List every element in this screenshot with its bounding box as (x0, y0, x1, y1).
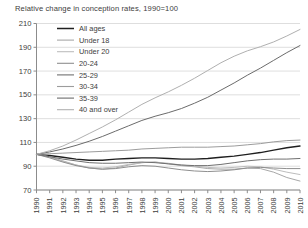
x-tick-label: 2001 (177, 198, 186, 214)
chart-legend: All agesUnder 18Under 2020-2425-2930-343… (57, 24, 119, 114)
legend-label: Under 20 (79, 47, 109, 56)
x-tick-label: 2007 (256, 198, 265, 214)
x-tick-label: 2006 (243, 198, 252, 214)
y-axis-labels: 2101901701501301109070 (19, 19, 32, 195)
x-tick-label: 2005 (230, 198, 239, 214)
y-tick-label: 210 (19, 19, 32, 28)
x-tick-label: 2010 (296, 198, 305, 214)
line-chart: 2101901701501301109070 19901991199219931… (0, 0, 308, 228)
x-tick-label: 2000 (164, 198, 173, 214)
legend-label: 30-34 (79, 82, 98, 91)
series-line-40-and-over (37, 29, 301, 154)
series-line-under-20 (37, 154, 301, 174)
y-tick-label: 130 (19, 114, 32, 123)
series-line-25-29 (37, 154, 301, 165)
y-tick-label: 150 (19, 90, 32, 99)
x-tick-label: 1995 (98, 198, 107, 214)
x-tick-label: 1992 (59, 198, 68, 214)
chart-container: Relative change in conception rates, 199… (0, 0, 308, 228)
x-tick-label: 1991 (45, 198, 54, 214)
legend-label: All ages (79, 24, 106, 33)
legend-label: Under 18 (79, 36, 109, 45)
x-tick-label: 1997 (125, 198, 134, 214)
x-tick-label: 1993 (72, 198, 81, 214)
y-tick-label: 90 (23, 162, 31, 171)
y-tick-label: 170 (19, 67, 32, 76)
data-series (37, 29, 301, 181)
x-tick-label: 1994 (85, 198, 94, 214)
series-line-35-39 (37, 46, 301, 155)
legend-label: 40 and over (79, 105, 119, 114)
y-tick-label: 70 (23, 186, 31, 195)
y-tick-label: 190 (19, 43, 32, 52)
x-tick-label: 2004 (217, 198, 226, 214)
legend-label: 35-39 (79, 94, 98, 103)
x-tick-label: 1996 (111, 198, 120, 214)
y-tick-label: 110 (19, 138, 31, 147)
x-tick-label: 2002 (190, 198, 199, 214)
legend-label: 25-29 (79, 71, 98, 80)
x-tick-label: 1998 (138, 198, 147, 214)
x-axis-ticks (37, 190, 301, 193)
x-tick-label: 1999 (151, 198, 160, 214)
x-tick-label: 1990 (32, 198, 41, 214)
legend-label: 20-24 (79, 59, 98, 68)
x-axis-labels: 1990199119921993199419951996199719981999… (32, 198, 305, 214)
x-tick-label: 2009 (283, 198, 292, 214)
x-tick-label: 2008 (269, 198, 278, 214)
x-tick-label: 2003 (204, 198, 213, 214)
